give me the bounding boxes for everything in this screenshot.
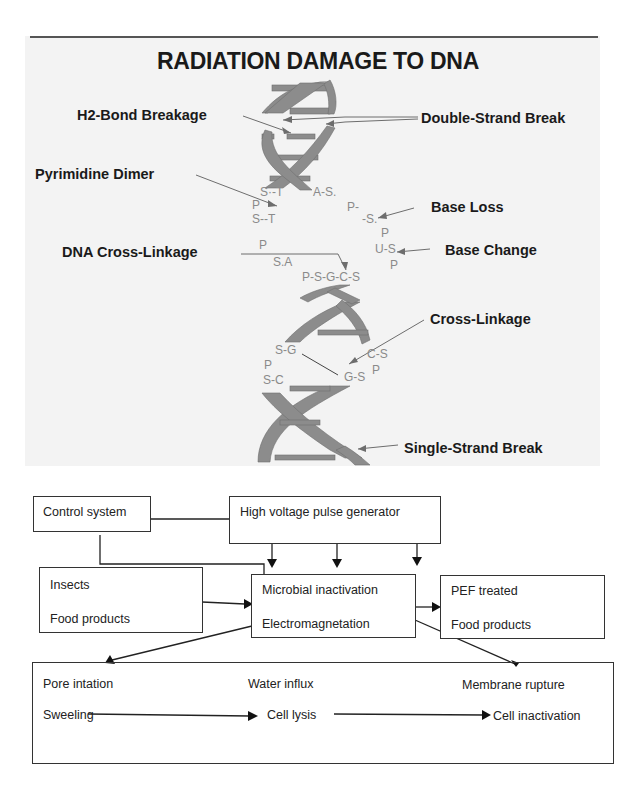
output-box: PEF treated Food products bbox=[440, 575, 605, 639]
effect-sweeling: Sweeling bbox=[43, 708, 94, 722]
output-pef-treated-label: PEF treated bbox=[451, 584, 518, 598]
cell-effects-box: Pore intation Water influx Membrane rupt… bbox=[32, 662, 614, 764]
control-system-label: Control system bbox=[43, 505, 126, 519]
effect-cell-lysis: Cell lysis bbox=[267, 708, 316, 722]
pulse-generator-label: High voltage pulse generator bbox=[240, 505, 400, 519]
electromagnetation-label: Electromagnetation bbox=[262, 617, 370, 631]
pulse-generator-box: High voltage pulse generator bbox=[229, 496, 441, 544]
input-food-products-label: Food products bbox=[50, 612, 130, 626]
effect-water-influx: Water influx bbox=[248, 677, 314, 691]
microbial-inactivation-box: Microbial inactivation Electromagnetatio… bbox=[251, 574, 416, 638]
effect-pore-intation: Pore intation bbox=[43, 677, 113, 691]
effect-membrane-rupture: Membrane rupture bbox=[462, 678, 565, 692]
input-insects-label: Insects bbox=[50, 578, 90, 592]
effect-cell-inactivation: Cell inactivation bbox=[493, 709, 581, 723]
figure-stage: RADIATION DAMAGE TO DNA bbox=[0, 0, 636, 794]
microbial-inactivation-label: Microbial inactivation bbox=[262, 583, 378, 597]
control-system-box: Control system bbox=[33, 496, 151, 532]
output-food-products-label: Food products bbox=[451, 618, 531, 632]
input-box: Insects Food products bbox=[39, 567, 203, 633]
